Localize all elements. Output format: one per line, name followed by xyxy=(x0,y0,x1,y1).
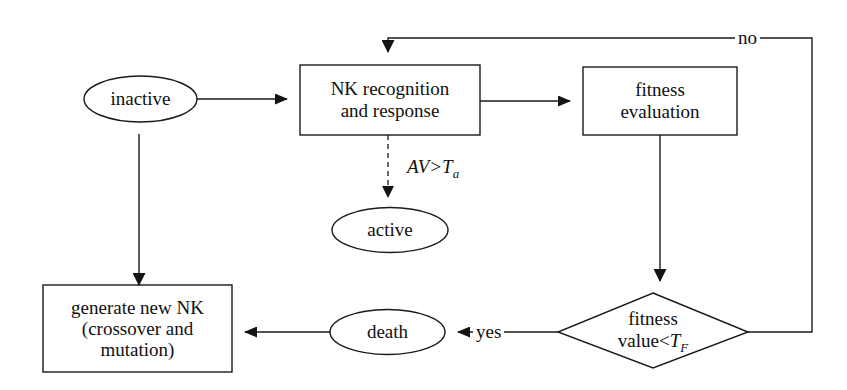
edge-label-activation-subscript: a xyxy=(453,166,459,181)
node-active-shape xyxy=(332,208,448,253)
edge-label-activation-prefix: AV> xyxy=(407,156,442,177)
edge-label-yes-text: yes xyxy=(476,321,501,342)
node-fitness-decision-shape xyxy=(558,293,748,368)
flowchart-canvas: inactive NK recognition and response fit… xyxy=(0,0,847,390)
edge-label-activation-symbol: T xyxy=(442,156,453,177)
node-fitness-evaluation-shape xyxy=(583,67,737,135)
node-nk-recognition-shape xyxy=(300,65,480,135)
edge-label-yes: yes xyxy=(473,322,504,341)
edge-label-no-text: no xyxy=(738,27,757,48)
flowchart-edges-layer xyxy=(0,0,847,390)
node-generate-nk-shape xyxy=(43,285,232,372)
node-inactive-shape xyxy=(84,76,197,122)
edge-label-no: no xyxy=(735,28,760,47)
node-death-shape xyxy=(330,310,445,355)
edge-label-activation-threshold: AV>Ta xyxy=(407,157,459,181)
